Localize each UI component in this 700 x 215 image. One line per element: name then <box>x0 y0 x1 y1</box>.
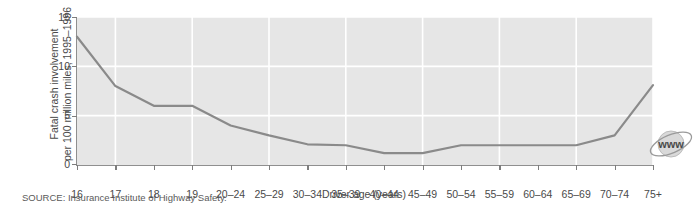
x-tick-mark-6 <box>307 165 308 170</box>
x-tick-mark-8 <box>384 165 385 170</box>
x-tick-mark-3 <box>192 165 193 170</box>
x-tick-mark-14 <box>615 165 616 170</box>
y-tick-label-5: 5 <box>50 109 70 121</box>
y-tick-label-15: 15 <box>50 11 70 23</box>
y-axis-title-line2: per 100 million miles, 1995–1996 <box>61 0 74 168</box>
x-tick-mark-10 <box>461 165 462 170</box>
x-tick-mark-7 <box>346 165 347 170</box>
plot-area: 1617181920–2425–2930–3435–3940–4445–4950… <box>76 17 653 166</box>
y-tick-label-0: 0 <box>50 158 70 170</box>
x-tick-mark-2 <box>154 165 155 170</box>
x-tick-mark-5 <box>269 165 270 170</box>
watermark-text: www <box>657 138 684 150</box>
source-note: SOURCE: Insurance Institute of Highway S… <box>22 192 227 203</box>
y-tick-label-10: 10 <box>50 60 70 72</box>
fatal-crash-rate-line <box>77 37 653 153</box>
x-tick-mark-12 <box>538 165 539 170</box>
x-tick-mark-13 <box>576 165 577 170</box>
www-globe-watermark: www <box>645 118 697 168</box>
y-axis-title-line1: Fatal crash involvement <box>48 29 60 140</box>
x-tick-mark-4 <box>231 165 232 170</box>
figure-canvas: Fatal crash involvement per 100 million … <box>0 0 700 215</box>
y-axis-title: Fatal crash involvement per 100 million … <box>2 0 54 172</box>
x-tick-mark-1 <box>115 165 116 170</box>
data-series-line <box>77 17 653 165</box>
x-tick-mark-9 <box>423 165 424 170</box>
x-tick-mark-0 <box>77 165 78 170</box>
x-tick-mark-11 <box>499 165 500 170</box>
